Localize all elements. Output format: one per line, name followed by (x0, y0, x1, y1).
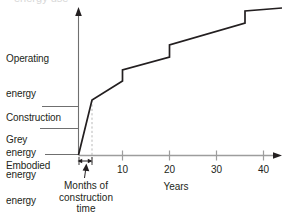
months-note-line2: construction (41, 192, 131, 204)
energy-accumulation-chart: energy use (0, 0, 290, 217)
y-axis (75, 7, 82, 155)
x-tick-label-30: 30 (205, 164, 229, 175)
x-tick-label-20: 20 (158, 164, 182, 175)
embodied-energy-label-line1: Embodied (6, 160, 50, 172)
x-axis-title: Years (146, 181, 206, 192)
construction-duration-arrow (78, 157, 93, 165)
months-callout-arrow (83, 164, 90, 179)
operating-energy-label-line1: Operating (6, 53, 49, 65)
months-note-line1: Months of (41, 180, 131, 192)
x-tick-label-40: 40 (252, 164, 276, 175)
x-tick-label-10: 10 (111, 164, 135, 175)
x-axis (79, 152, 283, 159)
energy-curve (79, 8, 283, 155)
months-note-line3: time (41, 203, 131, 215)
months-of-construction-time-note: Months of construction time (41, 180, 131, 215)
